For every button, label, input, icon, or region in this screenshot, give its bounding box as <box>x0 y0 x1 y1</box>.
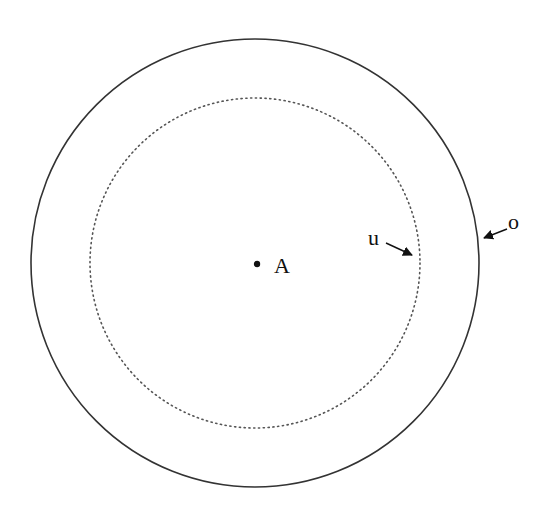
outer-circle-label: o <box>508 209 519 234</box>
outer-arrow-icon <box>484 229 507 238</box>
inner-circle-label: u <box>368 225 379 250</box>
center-label: A <box>274 253 290 278</box>
concentric-circles-diagram: A u o <box>0 0 548 507</box>
center-point <box>254 261 260 267</box>
inner-arrow-icon <box>386 243 412 255</box>
